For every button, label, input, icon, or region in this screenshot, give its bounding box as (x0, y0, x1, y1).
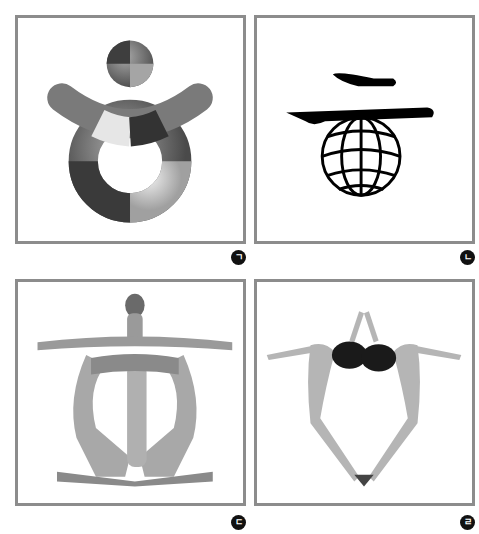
panel-d-frame (254, 279, 475, 506)
panel-a-frame (15, 15, 246, 244)
panel-label-badge: ㄹ (460, 515, 475, 530)
human-hexagon-figure-photo (257, 282, 472, 503)
human-circle-figure-photo (18, 282, 243, 503)
panel-c-frame (15, 279, 246, 506)
ring-symbol-illustration (18, 18, 243, 241)
panel-label-badge: ㄱ (231, 250, 246, 265)
panel-b-frame (254, 15, 475, 244)
panel-label-badge: ㄴ (460, 250, 475, 265)
globe-brush-illustration (257, 18, 472, 241)
panel-label-badge: ㄷ (231, 515, 246, 530)
